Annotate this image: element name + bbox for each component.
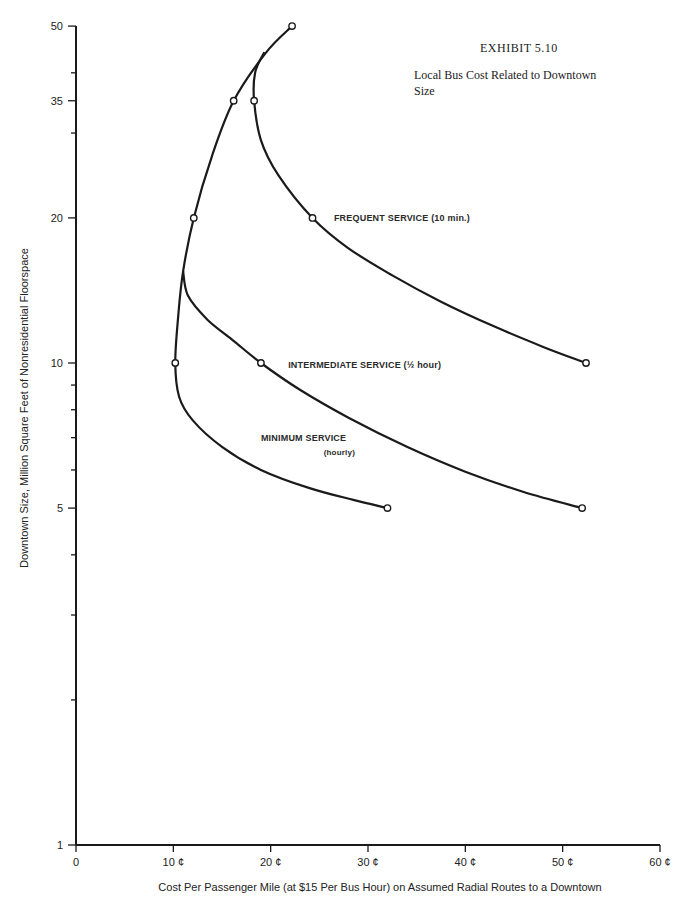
y-tick-label: 5 <box>57 502 63 514</box>
data-point-marker <box>583 360 589 366</box>
y-tick-label: 35 <box>51 95 63 107</box>
data-point-marker <box>230 98 236 104</box>
y-tick-label: 20 <box>51 212 63 224</box>
data-point-marker <box>309 215 315 221</box>
data-point-marker <box>289 23 295 29</box>
x-tick-label: 10 ¢ <box>163 856 184 868</box>
x-tick-label: 30 ¢ <box>357 856 378 868</box>
exhibit-number: EXHIBIT 5.10 <box>480 41 558 55</box>
label-intermediate-service: INTERMEDIATE SERVICE (½ hour) <box>288 360 441 370</box>
label-minimum-service: MINIMUM SERVICE <box>261 433 346 443</box>
x-tick-label: 40 ¢ <box>455 856 476 868</box>
x-tick-label: 60 ¢ <box>649 856 670 868</box>
curve-intermediate-service <box>183 271 582 508</box>
x-tick-label: 0 <box>73 856 79 868</box>
chart-canvas: EXHIBIT 5.10 Local Bus Cost Related to D… <box>0 0 699 901</box>
exhibit-title-line1: Local Bus Cost Related to Downtown <box>414 68 596 82</box>
series-labels: FREQUENT SERVICE (10 min.) INTERMEDIATE … <box>261 213 470 457</box>
exhibit-title: EXHIBIT 5.10 Local Bus Cost Related to D… <box>414 41 596 98</box>
axes: 1510203550 010 ¢20 ¢30 ¢40 ¢50 ¢60 ¢ <box>51 20 671 868</box>
data-point-marker <box>191 215 197 221</box>
data-point-marker <box>384 505 390 511</box>
y-tick-label: 1 <box>57 839 63 851</box>
series-curves <box>175 26 586 508</box>
data-point-marker <box>258 360 264 366</box>
curve-frequent-service <box>254 53 586 363</box>
exhibit-title-line2: Size <box>414 84 435 98</box>
y-axis-ticks: 1510203550 <box>51 20 76 851</box>
y-axis-title: Downtown Size, Million Square Feet of No… <box>18 248 30 568</box>
x-axis-title: Cost Per Passenger Mile (at $15 Per Bus … <box>158 881 601 893</box>
x-tick-label: 20 ¢ <box>260 856 281 868</box>
y-tick-label: 10 <box>51 357 63 369</box>
y-tick-label: 50 <box>51 20 63 32</box>
label-frequent-service: FREQUENT SERVICE (10 min.) <box>334 213 470 223</box>
data-point-marker <box>172 360 178 366</box>
x-axis-ticks: 010 ¢20 ¢30 ¢40 ¢50 ¢60 ¢ <box>73 845 671 868</box>
label-minimum-service-hourly: (hourly) <box>324 448 356 457</box>
x-tick-label: 50 ¢ <box>552 856 573 868</box>
data-point-marker <box>251 98 257 104</box>
data-point-marker <box>579 505 585 511</box>
series-markers <box>172 23 589 511</box>
